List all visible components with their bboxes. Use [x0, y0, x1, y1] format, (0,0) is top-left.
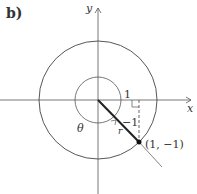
- polar-diagram: b) y x 1 −1 θ r (1, −1): [0, 0, 197, 194]
- label-theta: θ: [77, 122, 84, 135]
- x-axis-label: x: [187, 102, 194, 115]
- label-r: r: [118, 126, 123, 136]
- point-marker: [137, 140, 142, 145]
- label-one: 1: [124, 88, 131, 101]
- y-axis-label: y: [85, 2, 93, 15]
- right-angle-marker: [132, 100, 139, 107]
- panel-label: b): [6, 5, 22, 21]
- arc-arrow-icon: [111, 120, 116, 125]
- point-label: (1, −1): [145, 138, 184, 151]
- label-minus-one: −1: [122, 116, 138, 129]
